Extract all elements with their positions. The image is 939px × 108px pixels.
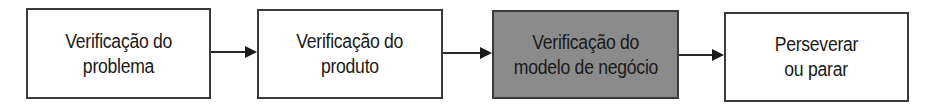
arrow-right-icon (211, 51, 255, 53)
node-label-line: Verificação do (297, 29, 404, 54)
node-persevere-or-stop: Perseverar ou parar (724, 12, 909, 102)
node-product-verification: Verificação do produto (257, 9, 443, 99)
arrow-right-icon (443, 52, 490, 54)
node-label-line: Perseverar (775, 32, 858, 57)
node-label-line: produto (321, 54, 379, 79)
node-problem-verification: Verificação do problema (26, 8, 211, 99)
node-label-line: problema (83, 54, 154, 79)
node-label-line: Verificação do (65, 29, 172, 54)
node-business-model-verification: Verificação do modelo de negócio (492, 10, 679, 99)
arrow-right-icon (679, 54, 722, 56)
node-label-line: ou parar (785, 57, 848, 82)
node-label-line: modelo de negócio (513, 55, 657, 80)
node-label-line: Verificação do (532, 30, 639, 55)
